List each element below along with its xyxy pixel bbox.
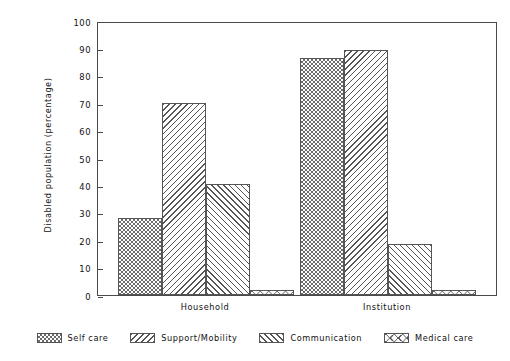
legend-item-support-mobility[interactable]: Support/Mobility: [130, 333, 237, 343]
tick-mark: [98, 105, 103, 106]
y-tick-label: 20: [79, 237, 91, 247]
bar-household-support-mobility: [162, 103, 206, 295]
y-tick-label: 10: [79, 264, 91, 274]
legend-label: Communication: [290, 333, 362, 343]
tick-mark: [98, 214, 103, 215]
bar-household-self-care: [118, 218, 162, 295]
bar-institution-communication: [388, 244, 432, 295]
y-tick-label: 70: [79, 100, 91, 110]
legend-swatch-forwardslash-hatch-icon: [259, 333, 284, 343]
tick-mark: [98, 269, 103, 270]
bar-institution-support-mobility: [344, 50, 388, 295]
y-tick-label: 40: [79, 182, 91, 192]
x-axis-label-institution: Institution: [327, 302, 447, 312]
legend-swatch-backslash-hatch-icon: [130, 333, 155, 343]
bar-household-communication: [206, 184, 250, 295]
y-tick-label: 0: [85, 292, 91, 302]
y-tick-label: 100: [74, 18, 92, 28]
tick-mark: [98, 242, 103, 243]
bar-institution-self-care: [300, 58, 344, 295]
y-tick-label: 30: [79, 209, 91, 219]
bar-institution-medical-care: [432, 290, 476, 295]
tick-mark: [98, 187, 103, 188]
y-axis-title: Disabled population (percentage): [43, 15, 53, 295]
y-tick-label: 50: [79, 155, 91, 165]
legend-item-communication[interactable]: Communication: [259, 333, 362, 343]
tick-mark: [98, 132, 103, 133]
tick-mark: [98, 160, 103, 161]
x-axis-label-household: Household: [145, 302, 265, 312]
legend-item-self-care[interactable]: Self care: [37, 333, 109, 343]
legend-swatch-checkerboard-icon: [37, 333, 62, 343]
y-tick-label: 60: [79, 127, 91, 137]
tick-mark: [98, 77, 103, 78]
legend-item-medical-care[interactable]: Medical care: [384, 333, 473, 343]
tick-mark: [98, 50, 103, 51]
legend-label: Self care: [68, 333, 109, 343]
legend-label: Support/Mobility: [161, 333, 237, 343]
tick-mark: [98, 297, 103, 298]
y-tick-label: 90: [79, 45, 91, 55]
plot-area: 0102030405060708090100: [97, 22, 497, 296]
y-tick-label: 80: [79, 72, 91, 82]
legend-label: Medical care: [415, 333, 473, 343]
bar-household-medical-care: [250, 290, 294, 295]
bar-chart: Disabled population (percentage) 0102030…: [0, 0, 510, 361]
legend-swatch-bowtie-x-icon: [384, 333, 409, 343]
chart-legend: Self careSupport/MobilityCommunicationMe…: [0, 333, 510, 343]
